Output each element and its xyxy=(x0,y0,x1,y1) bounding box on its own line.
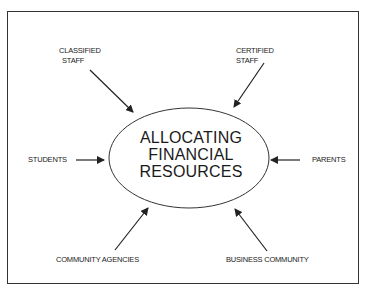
label-business-community: BUSINESS COMMUNITY xyxy=(226,255,309,265)
label-community-agencies: COMMUNITY AGENCIES xyxy=(56,255,139,265)
center-line-2: FINANCIAL xyxy=(131,146,251,163)
arrow-classified-staff xyxy=(90,70,133,112)
label-line: BUSINESS COMMUNITY xyxy=(226,255,309,265)
label-line: STUDENTS xyxy=(28,155,67,165)
label-classified-staff: CLASSIFIED STAFF xyxy=(59,46,101,66)
label-line: STAFF xyxy=(59,56,101,66)
arrow-business-community xyxy=(235,209,267,251)
label-line: STAFF xyxy=(236,56,274,66)
arrow-certified-staff xyxy=(234,63,264,107)
label-certified-staff: CERTIFIED STAFF xyxy=(236,46,274,66)
label-line: CLASSIFIED xyxy=(59,46,101,56)
center-line-1: ALLOCATING xyxy=(131,129,251,146)
center-line-3: RESOURCES xyxy=(131,163,251,180)
center-label: ALLOCATING FINANCIAL RESOURCES xyxy=(131,129,251,180)
arrow-community-agencies xyxy=(115,208,148,250)
label-line: PARENTS xyxy=(312,155,345,165)
label-parents: PARENTS xyxy=(312,155,345,165)
label-line: COMMUNITY AGENCIES xyxy=(56,255,139,265)
label-students: STUDENTS xyxy=(28,155,67,165)
label-line: CERTIFIED xyxy=(236,46,274,56)
